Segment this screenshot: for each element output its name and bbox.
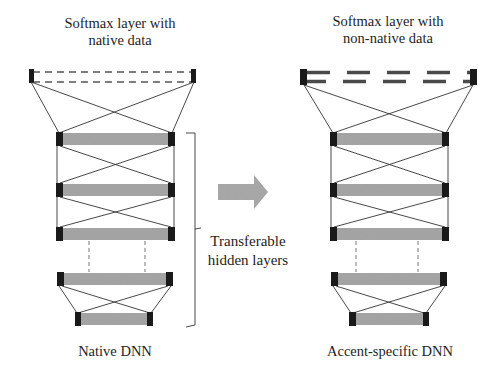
left-layer-ellipsis <box>89 241 145 272</box>
right-hidden-layer-4 <box>331 272 447 286</box>
transferable-bracket <box>186 133 201 327</box>
left-connections-h4-h5 <box>59 286 171 313</box>
right-layer-ellipsis <box>356 241 418 272</box>
native-dnn-caption: Native DNN <box>40 343 190 360</box>
right-arrow-icon <box>218 175 268 209</box>
left-hidden-layer-2 <box>56 183 175 197</box>
right-connections-h2-h3 <box>331 197 448 227</box>
right-hidden-layer-5 <box>349 312 429 326</box>
right-connections-h4-h5 <box>333 286 445 313</box>
transferable-label-line2: hidden layers <box>200 251 296 270</box>
left-connections-h1-h2 <box>57 146 174 183</box>
left-softmax-layer <box>29 69 196 83</box>
left-hidden-layer-1 <box>56 132 175 146</box>
left-hidden-layer-3 <box>56 227 175 241</box>
transferable-hidden-layers-label: Transferable hidden layers <box>200 232 296 270</box>
left-hidden-layer-5 <box>75 312 153 326</box>
right-connections-h1-h2 <box>331 146 448 183</box>
left-connections-softmax-h1 <box>31 82 194 133</box>
right-hidden-layer-1 <box>330 132 449 146</box>
right-connections-softmax-h1 <box>304 85 473 133</box>
right-softmax-layer <box>300 69 477 85</box>
transferable-label-line1: Transferable <box>200 232 296 251</box>
native-dnn <box>29 69 196 326</box>
dnn-transfer-diagram <box>0 0 497 378</box>
accent-specific-dnn <box>300 69 477 326</box>
left-hidden-layer-4 <box>57 272 173 286</box>
accent-specific-dnn-caption: Accent-specific DNN <box>305 343 475 360</box>
right-hidden-layer-2 <box>330 183 449 197</box>
left-connections-h2-h3 <box>57 197 174 227</box>
right-hidden-layer-3 <box>330 227 449 241</box>
